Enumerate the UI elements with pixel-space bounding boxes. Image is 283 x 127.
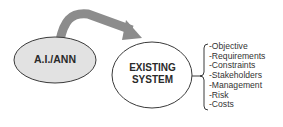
ai-ann-label: A.I./ANN (14, 53, 96, 65)
aspects-list: -Objective -Requirements -Constraints -S… (209, 42, 265, 110)
diagram-canvas: A.I./ANN EXISTING SYSTEM -Objective -Req… (0, 0, 283, 127)
bracket-icon (200, 44, 208, 110)
existing-system-label: EXISTING SYSTEM (112, 62, 193, 86)
aspect-item: -Costs (209, 100, 265, 110)
existing-system-line1: EXISTING (112, 62, 193, 74)
influence-arrow (60, 14, 132, 40)
existing-system-line2: SYSTEM (112, 74, 193, 86)
